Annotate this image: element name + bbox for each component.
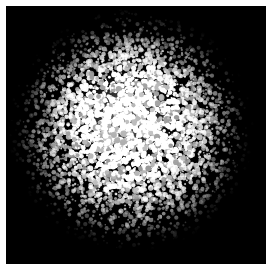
image-panel bbox=[6, 6, 266, 264]
margin-left bbox=[0, 0, 6, 271]
figure-root bbox=[0, 0, 269, 271]
margin-top bbox=[0, 0, 269, 6]
margin-right bbox=[266, 0, 269, 271]
speckle-texture bbox=[6, 6, 266, 264]
margin-bottom bbox=[0, 264, 269, 271]
